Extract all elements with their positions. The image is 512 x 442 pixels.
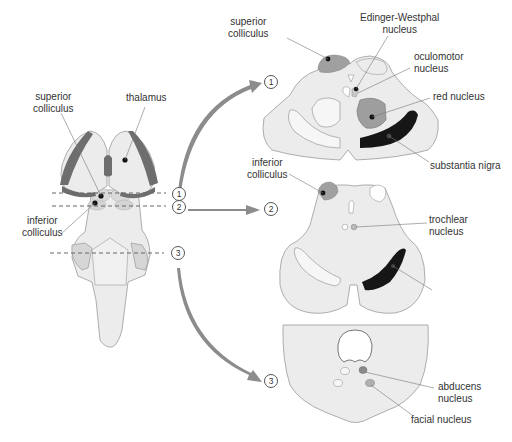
label-thalamus: thalamus [126,92,167,104]
section-2-number: 2 [264,202,278,216]
brainstem-dorsal-view [50,107,166,347]
section-1-number: 1 [264,75,278,89]
label-substantia-nigra: substantia nigra [430,160,501,172]
label-facial: facial nucleus [411,414,472,426]
section-arrows [177,80,262,382]
label-oculomotor: oculomotor nucleus [414,51,463,75]
section-marker-1: 1 [172,187,186,201]
s1-superior-colliculus-leader [287,38,328,59]
label-line: trochlear [429,214,468,226]
label-line: colliculus [247,169,288,181]
fourth-ventricle [338,330,372,362]
section-3-pons [283,325,434,423]
facial-nucleus [366,380,375,387]
label-line: nucleus [438,393,481,405]
section-2-midbrain [280,174,432,313]
arrow-3 [177,268,262,382]
label-line: colliculus [22,227,63,239]
s1-label-superior-colliculus: superior colliculus [228,16,269,40]
inferior-colliculus-right [115,200,133,210]
label-line: colliculus [228,28,269,40]
label-line: inferior [247,157,288,169]
arrow-2 [188,205,260,215]
label-line: nucleus [414,63,463,75]
label-trochlear: trochlear nucleus [429,214,468,238]
trochlear-left [342,224,348,230]
label-line: inferior [22,215,63,227]
section-1-outline [263,56,438,160]
label-red-nucleus: red nucleus [433,91,485,103]
label-inferior-colliculus: inferior colliculus [22,215,63,239]
label-line: superior [228,16,269,28]
red-nucleus [357,98,386,128]
label-line: superior [33,91,74,103]
label-line: nucleus [360,24,439,36]
pineal-region [104,155,112,177]
label-line: oculomotor [414,51,463,63]
label-line: Edinger-Westphal [360,12,439,24]
label-line: nucleus [429,226,468,238]
inferior-colliculus-section-leader [289,174,323,193]
label-line: colliculus [33,103,74,115]
section-3-number: 3 [264,374,278,388]
s3-left-upper-nucleus [341,368,350,375]
aqueduct-2 [349,201,354,214]
s2-label-inferior-colliculus: inferior colliculus [247,157,288,181]
trochlear-nucleus [351,224,357,230]
label-abducens: abducens nucleus [438,381,481,405]
label-line: abducens [438,381,481,393]
section-1-midbrain [263,36,438,162]
label-edinger-westphal: Edinger-Westphal nucleus [360,12,439,36]
s3-left-lower-nucleus [334,380,343,387]
label-superior-colliculus: superior colliculus [33,91,74,115]
section-marker-2: 2 [172,200,186,214]
section-marker-3: 3 [171,246,185,260]
